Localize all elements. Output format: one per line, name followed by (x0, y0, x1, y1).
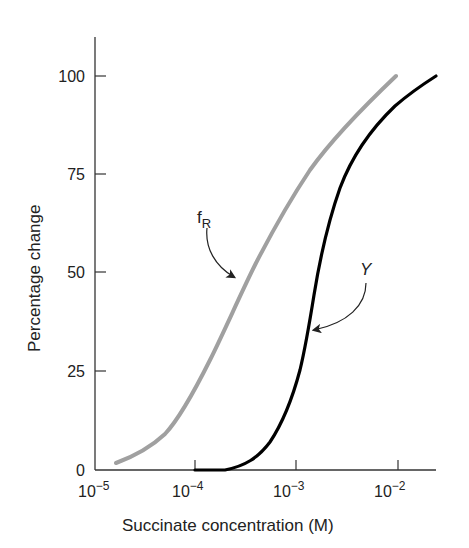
y-tick-100: 100 (58, 68, 85, 85)
x-tick-1e-2: 10−2 (374, 479, 406, 500)
y-tick-25: 25 (67, 363, 85, 380)
y-axis-title: Percentage change (25, 205, 44, 352)
x-tick-1e-5: 10−5 (78, 479, 110, 500)
y-tick-0: 0 (76, 462, 85, 479)
y-ticks (95, 76, 106, 371)
annotation-fR: fR (197, 208, 234, 277)
x-tick-labels: 10−5 10−4 10−3 10−2 (78, 479, 406, 500)
x-tick-1e-4: 10−4 (172, 479, 204, 500)
arrow-fR-icon (207, 228, 234, 277)
y-tick-50: 50 (67, 264, 85, 281)
y-tick-75: 75 (67, 166, 85, 183)
x-axis-title: Succinate concentration (M) (122, 516, 334, 535)
y-tick-labels: 100 75 50 25 0 (58, 68, 85, 479)
x-tick-1e-3: 10−3 (273, 479, 305, 500)
arrow-Y-icon (314, 283, 366, 330)
chart: 100 75 50 25 0 10−5 10−4 10−3 10−2 Succi… (0, 0, 469, 548)
svg-text:fR: fR (197, 208, 211, 231)
series-fR-line (116, 76, 396, 463)
annotation-Y: Y (314, 260, 373, 330)
svg-text:Y: Y (360, 260, 373, 279)
series-Y-line (195, 76, 436, 470)
